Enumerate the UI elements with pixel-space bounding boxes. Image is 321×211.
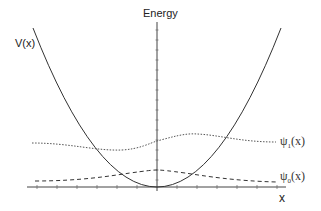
- psi1-curve: [32, 134, 276, 150]
- y-axis: [156, 22, 159, 191]
- psi1-arg: (x): [291, 134, 305, 148]
- potential-label: V(x): [15, 38, 35, 49]
- psi1-label: ψ1(x): [280, 135, 305, 150]
- psi1-symbol: ψ: [280, 134, 288, 148]
- y-axis-label: Energy: [143, 8, 178, 19]
- psi0-arg: (x): [291, 169, 305, 183]
- psi0-symbol: ψ: [280, 169, 288, 183]
- energy-diagram: [0, 0, 321, 211]
- x-axis-label: x: [279, 192, 285, 204]
- psi0-label: ψ0(x): [280, 170, 305, 185]
